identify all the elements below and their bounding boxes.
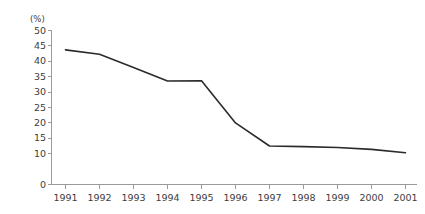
x-tick-label: 1999: [325, 192, 349, 203]
y-tick-label: 0: [40, 179, 46, 190]
y-tick-marks: [48, 31, 52, 185]
x-tick-labels: 1991 1992 1993 1994 1995 1996 1997 1998 …: [53, 192, 417, 203]
y-tick-label: 35: [34, 71, 46, 82]
x-tick-label: 1998: [291, 192, 315, 203]
x-tick-label: 1991: [53, 192, 77, 203]
x-tick-label: 2001: [393, 192, 417, 203]
y-tick-label: 50: [34, 25, 46, 36]
x-tick-label: 1993: [121, 192, 145, 203]
y-tick-label: 40: [34, 55, 46, 66]
y-tick-label: 45: [34, 40, 46, 51]
x-tick-label: 1995: [189, 192, 213, 203]
plot-area: [66, 50, 406, 153]
x-tick-label: 2000: [359, 192, 383, 203]
y-axis-unit-label: (%): [30, 14, 45, 24]
x-tick-label: 1994: [155, 192, 179, 203]
x-tick-label: 1997: [257, 192, 281, 203]
line-chart-figure: (%) 50 45 40 35 30 25 20 15 10 0: [0, 0, 425, 214]
data-series-line: [66, 50, 406, 153]
x-axis-group: 1991 1992 1993 1994 1995 1996 1997 1998 …: [52, 185, 418, 204]
x-tick-marks: [66, 185, 406, 190]
chart-canvas: (%) 50 45 40 35 30 25 20 15 10 0: [0, 0, 425, 214]
y-tick-labels: 50 45 40 35 30 25 20 15 10 0: [34, 25, 46, 190]
y-tick-label: 25: [34, 102, 46, 113]
y-axis-group: (%) 50 45 40 35 30 25 20 15 10 0: [30, 14, 52, 190]
x-tick-label: 1996: [223, 192, 247, 203]
x-tick-label: 1992: [87, 192, 111, 203]
y-tick-label: 20: [34, 117, 46, 128]
y-tick-label: 10: [34, 148, 46, 159]
y-tick-label: 15: [34, 132, 46, 143]
y-tick-label: 30: [34, 86, 46, 97]
